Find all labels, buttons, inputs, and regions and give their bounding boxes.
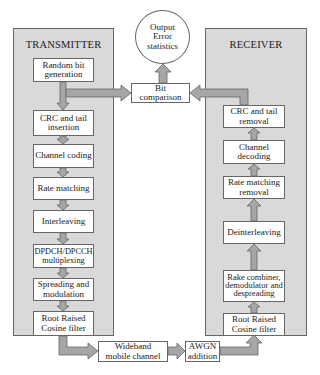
block-rate-matching-removal: Rate matching removal	[223, 176, 285, 199]
block-rx-root-raised-cosine-filter: Root Raised Cosine filter	[223, 313, 285, 336]
arrow-tx2-tx3	[57, 136, 69, 144]
arrow-rx1-bitcomp	[190, 85, 248, 105]
block-crc-tail-insertion: CRC and tail insertion	[33, 110, 94, 136]
arrow-rx5-rx4	[247, 244, 261, 270]
block-deinterleaving: Deinterleaving	[223, 221, 285, 244]
arrow-channel-awgn	[168, 343, 185, 359]
arrow-awgn-rx6	[220, 335, 262, 355]
arrow-tx7-tx8	[57, 301, 69, 311]
arrow-tx6-tx7	[57, 268, 69, 278]
arrow-rx2-rx1	[248, 128, 260, 140]
arrow-tx1-bitcomp	[66, 85, 131, 101]
block-awgn-addition: AWGN addition	[185, 341, 220, 362]
arrow-rx3-rx2	[248, 164, 260, 176]
arrow-rx4-rx3	[247, 199, 261, 221]
block-tx-root-raised-cosine-filter: Root Raised Cosine filter	[33, 311, 94, 336]
arrow-bitcomp-output	[155, 64, 171, 83]
block-random-bit-generation: Random bit generation	[33, 58, 94, 82]
arrow-tx8-channel	[59, 336, 98, 359]
block-wideband-mobile-channel: Wideband mobile channel	[98, 341, 168, 362]
block-interleaving: Interleaving	[33, 210, 94, 233]
arrow-tx5-tx6	[57, 233, 69, 244]
block-rake-combiner: Rake combiner, demodulator and despreadi…	[223, 270, 285, 302]
arrow-tx3-tx4	[57, 168, 69, 177]
block-dpdch-dpcch-multiplexing: DPDCH/DPCCH multiplexing	[33, 244, 94, 268]
output-error-statistics: Output Error statistics	[135, 10, 190, 64]
block-rate-matching: Rate matching	[33, 177, 94, 200]
block-channel-coding: Channel coding	[33, 144, 94, 168]
block-crc-tail-removal: CRC and tail removal	[223, 105, 285, 128]
arrow-tx4-tx5	[57, 200, 69, 210]
block-channel-decoding: Channel decoding	[223, 140, 285, 164]
arrow-rx6-rx5	[248, 302, 260, 313]
block-bit-comparison: Bit comparison	[131, 83, 190, 103]
block-spreading-modulation: Spreading and modulation	[33, 278, 94, 301]
